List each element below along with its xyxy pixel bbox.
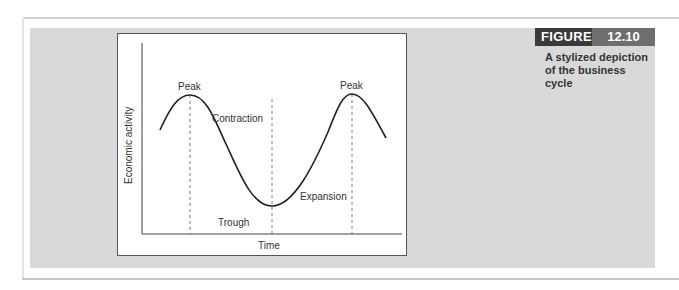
diagram-canvas: Peak Peak Contraction Expansion Trough T…	[118, 34, 408, 257]
expansion-label: Expansion	[300, 191, 347, 202]
peak-right-label: Peak	[340, 80, 364, 91]
trough-label: Trough	[218, 217, 249, 228]
x-axis-label: Time	[258, 240, 280, 251]
figure-tag: FIGURE 12.10	[535, 28, 655, 46]
figure-label: FIGURE	[535, 28, 592, 46]
frame-left-rule	[22, 17, 24, 280]
frame-top-rule	[22, 17, 679, 19]
business-cycle-diagram: Peak Peak Contraction Expansion Trough T…	[117, 33, 407, 256]
figure-number: 12.10	[592, 28, 655, 46]
y-axis-label: Economic activity	[123, 107, 134, 184]
frame-bottom-rule	[22, 278, 679, 280]
figure-caption: A stylized depiction of the business cyc…	[545, 51, 653, 90]
peak-left-label: Peak	[178, 81, 202, 92]
contraction-label: Contraction	[212, 113, 263, 124]
